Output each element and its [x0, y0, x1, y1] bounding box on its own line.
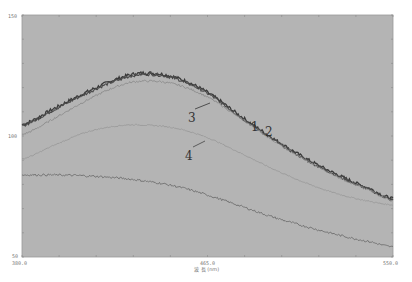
x-axis-label: 波 長 (nm)	[194, 266, 219, 273]
spectrum-chart: 1234 150 100 50 380.0 465.0 550.0 波 長 (n…	[0, 0, 412, 282]
curve-label-3: 3	[188, 111, 196, 125]
x-tick-right: 550.0	[383, 260, 398, 266]
y-tick-mid: 100	[8, 133, 17, 139]
curve-label-4: 4	[185, 149, 193, 163]
curve-label-2: 2	[265, 125, 273, 139]
curve-label-1: 1	[251, 120, 259, 134]
plot-area	[22, 15, 393, 257]
x-tick-left: 380.0	[12, 260, 27, 266]
y-tick-bottom: 50	[12, 253, 18, 259]
y-tick-top: 150	[8, 13, 17, 19]
